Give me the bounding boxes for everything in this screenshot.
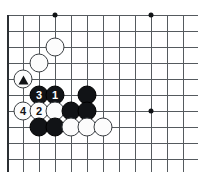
grid-line-vertical	[103, 15, 104, 172]
grid-line-vertical	[183, 15, 184, 172]
white-stone	[30, 54, 49, 73]
star-point	[149, 109, 154, 114]
grid-line-vertical	[23, 15, 24, 172]
star-point	[149, 13, 154, 18]
stone-move-number: 3	[36, 89, 42, 100]
star-point	[53, 13, 58, 18]
white-stone	[94, 118, 113, 137]
stone-move-number: 4	[20, 105, 26, 116]
grid-line-vertical	[135, 15, 136, 172]
white-stone-triangle-marked	[14, 70, 33, 89]
grid-line-vertical	[167, 15, 168, 172]
stone-move-number: 2	[36, 105, 42, 116]
grid-line-vertical	[119, 15, 120, 172]
grid-line-vertical	[71, 15, 72, 172]
white-stone	[46, 38, 65, 57]
triangle-icon	[18, 76, 28, 85]
stone-move-number: 1	[52, 89, 58, 100]
board-edge-left	[7, 15, 9, 172]
go-board-diagram: 3142	[0, 0, 198, 172]
grid-line-vertical	[151, 15, 152, 172]
